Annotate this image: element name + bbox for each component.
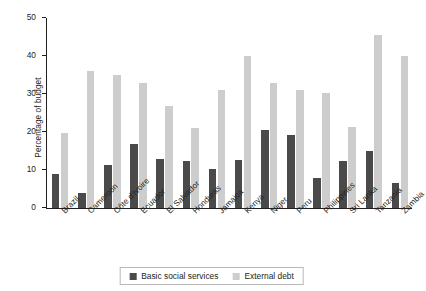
bar-group <box>366 18 382 208</box>
y-axis-tick-label: 0 <box>31 202 36 212</box>
bar-group <box>209 18 225 208</box>
y-axis-tick-label: 20 <box>27 126 36 136</box>
bars-layer <box>47 18 412 208</box>
y-axis-tick: 20 <box>42 131 46 132</box>
y-axis-tick: 0 <box>42 207 46 208</box>
y-axis-tick: 40 <box>42 55 46 56</box>
bar <box>87 71 95 208</box>
plot-area: 01020304050 <box>46 18 412 208</box>
y-axis-tick-label: 50 <box>27 12 36 22</box>
bar-group <box>339 18 355 208</box>
bar-group <box>261 18 277 208</box>
legend-label: External debt <box>244 271 293 281</box>
bar-group <box>156 18 172 208</box>
bar <box>244 56 252 208</box>
bar <box>313 178 321 208</box>
bar-group <box>287 18 303 208</box>
x-axis-tick-labels: BrazilCameroonCôte d'IvoireEcuadorEl Sal… <box>46 209 412 265</box>
bar-group <box>235 18 251 208</box>
bar <box>296 90 304 208</box>
bar <box>322 93 330 208</box>
bar-group <box>183 18 199 208</box>
bar <box>52 174 60 208</box>
y-axis-tick: 10 <box>42 169 46 170</box>
bar <box>191 128 199 208</box>
legend-label: Basic social services <box>141 271 218 281</box>
bar-group <box>78 18 94 208</box>
bar-group <box>313 18 329 208</box>
y-axis-title: Percentage of budget <box>34 18 43 218</box>
bar <box>374 35 382 208</box>
y-axis-tick-label: 40 <box>27 50 36 60</box>
legend-item-external-debt: External debt <box>232 271 293 281</box>
legend-swatch-icon <box>129 273 136 280</box>
bar-group <box>52 18 68 208</box>
bar <box>270 83 278 208</box>
y-axis-tick-label: 10 <box>27 164 36 174</box>
legend-item-basic-social-services: Basic social services <box>129 271 218 281</box>
bar-group <box>392 18 408 208</box>
bar <box>401 56 409 208</box>
bar <box>348 127 356 208</box>
legend-swatch-icon <box>232 273 239 280</box>
legend: Basic social services External debt <box>119 267 304 285</box>
bar-group <box>104 18 120 208</box>
bar <box>287 135 295 208</box>
y-axis-tick: 50 <box>42 17 46 18</box>
bar <box>61 133 69 208</box>
y-axis-tick: 30 <box>42 93 46 94</box>
y-axis-tick-label: 30 <box>27 88 36 98</box>
